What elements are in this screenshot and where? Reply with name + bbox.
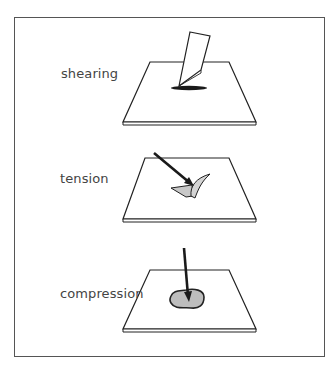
label-tension: tension	[60, 171, 109, 186]
tension-panel	[123, 153, 256, 222]
label-compression: compression	[60, 286, 144, 301]
shear-cut-shadow	[171, 86, 207, 90]
shearing-panel	[123, 32, 256, 125]
label-shearing: shearing	[61, 66, 118, 81]
force-types-diagram	[0, 0, 329, 370]
